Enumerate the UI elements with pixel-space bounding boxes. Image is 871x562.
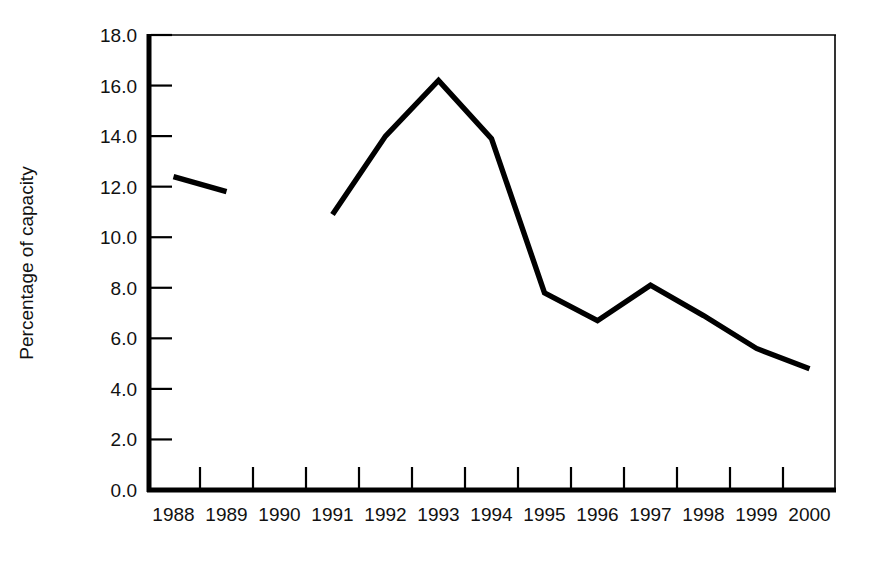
x-tick-label: 1993 xyxy=(417,504,459,525)
x-tick-label: 1994 xyxy=(470,504,513,525)
x-tick-label: 1990 xyxy=(258,504,300,525)
x-tick-label: 1988 xyxy=(152,504,194,525)
y-tick-label: 2.0 xyxy=(111,429,137,450)
x-tick-label: 1998 xyxy=(682,504,724,525)
x-tick-label: 1997 xyxy=(629,504,671,525)
x-tick-label: 1995 xyxy=(523,504,565,525)
x-tick-label: 1996 xyxy=(576,504,618,525)
y-axis-tick-labels: 0.02.04.06.08.010.012.014.016.018.0 xyxy=(100,25,137,501)
y-axis-title: Percentage of capacity xyxy=(16,166,37,360)
chart-canvas: 0.02.04.06.08.010.012.014.016.018.0 1988… xyxy=(0,0,871,562)
y-tick-label: 0.0 xyxy=(111,480,137,501)
y-tick-label: 6.0 xyxy=(111,328,137,349)
y-tick-label: 8.0 xyxy=(111,278,137,299)
x-axis-tick-labels: 1988198919901991199219931994199519961997… xyxy=(152,504,830,525)
x-tick-label: 1992 xyxy=(364,504,406,525)
y-axis-title-text: Percentage of capacity xyxy=(16,166,37,360)
x-tick-label: 2000 xyxy=(788,504,830,525)
y-tick-label: 10.0 xyxy=(100,227,137,248)
plot-area-background xyxy=(147,34,836,492)
y-tick-label: 12.0 xyxy=(100,177,137,198)
x-tick-label: 1991 xyxy=(311,504,353,525)
y-tick-label: 18.0 xyxy=(100,25,137,46)
y-tick-label: 4.0 xyxy=(111,379,137,400)
line-chart-figure: 0.02.04.06.08.010.012.014.016.018.0 1988… xyxy=(0,0,871,562)
x-tick-label: 1989 xyxy=(205,504,247,525)
x-tick-label: 1999 xyxy=(735,504,777,525)
y-tick-label: 14.0 xyxy=(100,126,137,147)
y-tick-label: 16.0 xyxy=(100,76,137,97)
